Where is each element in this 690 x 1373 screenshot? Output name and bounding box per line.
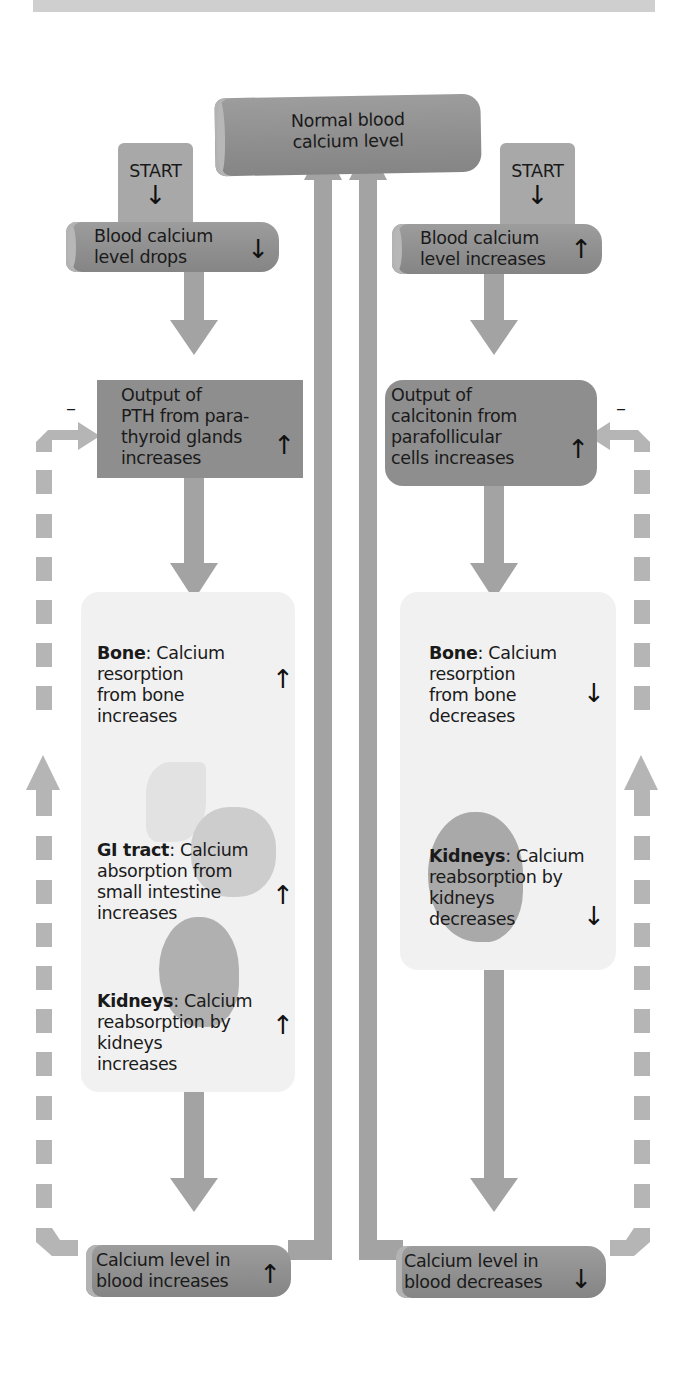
kidneys-label: Kidneys: [97, 991, 173, 1011]
kidneys-label: Kidneys: [429, 846, 505, 866]
left-effect-bone: Bone: Calcium resorption from bone incre…: [97, 643, 225, 727]
right-effect-kidneys: Kidneys: Calcium reabsorption by kidneys…: [429, 846, 584, 930]
down-arrow-icon: ↓: [247, 236, 269, 262]
normal-blood-calcium-vessel: Normal blood calcium level: [214, 94, 481, 177]
up-arrow-icon: ↑: [272, 882, 294, 908]
calcitonin-line2: calcitonin from: [391, 406, 517, 427]
right-start-label: START: [500, 161, 575, 182]
pth-line4: increases: [121, 448, 249, 469]
left-return-shaft: [314, 180, 332, 1260]
gi-tract-label: GI tract: [97, 840, 169, 860]
down-arrow-icon: ↓: [500, 182, 575, 208]
up-arrow-icon: ↑: [259, 1261, 281, 1287]
calcitonin-output-box: Output of calcitonin from parafollicular…: [385, 380, 597, 486]
left-trigger-line1: Blood calcium: [94, 226, 213, 247]
right-trigger-vessel: Blood calcium level increases ↑: [392, 224, 602, 274]
pth-line3: thyroid glands: [121, 427, 249, 448]
right-result-line1: Calcium level in: [404, 1251, 542, 1272]
down-arrow-icon: ↓: [118, 182, 193, 208]
left-result-line2: blood increases: [96, 1271, 230, 1292]
pth-line2: PTH from para-: [121, 406, 249, 427]
up-arrow-icon: ↑: [272, 666, 294, 692]
up-arrow-icon: ↑: [272, 1012, 294, 1038]
left-effect-kidneys: Kidneys: Calcium reabsorption by kidneys…: [97, 991, 252, 1075]
right-trigger-line1: Blood calcium: [420, 228, 546, 249]
down-arrow-icon: ↓: [570, 1266, 592, 1292]
left-trigger-line2: level drops: [94, 247, 213, 268]
up-arrow-icon: ↑: [570, 236, 592, 262]
pth-output-box: Output of PTH from para- thyroid glands …: [97, 380, 303, 478]
bone-label: Bone: [97, 643, 146, 663]
bone-label: Bone: [429, 643, 478, 663]
right-result-vessel: Calcium level in blood decreases ↓: [396, 1246, 606, 1298]
calcitonin-line3: parafollicular: [391, 427, 517, 448]
pth-line1: Output of: [121, 385, 249, 406]
right-result-line2: blood decreases: [404, 1272, 542, 1293]
left-negative-sign: –: [66, 396, 76, 420]
up-arrow-icon: ↑: [273, 432, 295, 458]
left-result-line1: Calcium level in: [96, 1250, 230, 1271]
up-arrow-icon: ↑: [567, 436, 589, 462]
right-negative-sign: –: [616, 396, 626, 420]
right-effect-bone: Bone: Calcium resorption from bone decre…: [429, 643, 557, 727]
down-arrow-icon: ↓: [583, 903, 605, 929]
down-arrow-icon: ↓: [583, 680, 605, 706]
left-result-vessel: Calcium level in blood increases ↑: [86, 1245, 291, 1297]
left-effect-gi-tract: GI tract: Calcium absorption from small …: [97, 840, 248, 924]
right-trigger-line2: level increases: [420, 249, 546, 270]
left-start-label: START: [118, 161, 193, 182]
left-trigger-vessel: Blood calcium level drops ↓: [66, 222, 279, 272]
calcitonin-line4: cells increases: [391, 448, 517, 469]
right-return-shaft: [359, 180, 377, 1260]
calcitonin-line1: Output of: [391, 385, 517, 406]
normal-level-line2: calcium level: [215, 129, 481, 155]
